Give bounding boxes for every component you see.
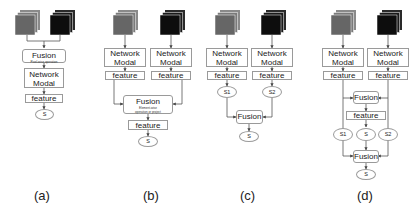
rgb-image-stack-icon (113, 10, 139, 35)
modal-label: Modal (105, 58, 145, 67)
modal-label: Modal (25, 79, 63, 88)
network-modal-box-a: Network Modal (24, 68, 64, 88)
depth-image-stack-icon (160, 10, 186, 35)
score-s2-c: S2 (262, 86, 282, 98)
output-s-a: S (35, 109, 54, 120)
fusion-title: Fusion (136, 97, 160, 106)
fusion-box-a: Fusion Pixel-wise operation (22, 49, 66, 63)
feature-box-b-right: feature (151, 71, 191, 80)
output-s-d: S (356, 169, 376, 180)
feature-box-d-right: feature (368, 71, 408, 80)
fusion-box-c: Fusion (236, 110, 263, 124)
caption-d: (d) (357, 188, 373, 203)
network-label: Network (25, 70, 63, 79)
caption-b: (b) (143, 188, 159, 203)
caption-c: (c) (240, 188, 255, 203)
depth-image-stack-icon (377, 10, 403, 35)
depth-image-stack-icon (261, 10, 287, 35)
network-label: Network (151, 49, 191, 58)
fusion-box-d-bottom: Fusion (353, 150, 379, 163)
feature-box-d-left: feature (323, 71, 363, 80)
fusion-title: Fusion (32, 51, 56, 60)
network-modal-box-d-right: Network Modal (367, 48, 409, 67)
fusion-subtitle: Pixel-wise operation (23, 60, 65, 64)
network-label: Network (252, 49, 292, 58)
feature-box-a: feature (25, 94, 63, 103)
modal-label: Modal (323, 58, 363, 67)
output-s-b: S (138, 136, 158, 147)
network-modal-box-b-right: Network Modal (150, 48, 192, 67)
rgb-image-stack-icon (215, 10, 241, 35)
score-s2-d: S2 (378, 128, 398, 141)
score-s1-d: S1 (333, 128, 353, 141)
modal-label: Modal (151, 58, 191, 67)
feature-box-c-right: feature (252, 71, 292, 80)
rgb-image-stack-icon (331, 10, 357, 35)
output-s-c: S (239, 131, 259, 142)
caption-a: (a) (34, 188, 50, 203)
fusion-box-b: Fusion Element-wise operation or project (123, 95, 173, 114)
modal-label: Modal (207, 58, 247, 67)
network-label: Network (323, 49, 363, 58)
score-s1-c: S1 (217, 86, 237, 98)
network-modal-box-d-left: Network Modal (322, 48, 364, 67)
network-label: Network (207, 49, 247, 58)
modal-label: Modal (368, 58, 408, 67)
feature-box-d-fused: feature (346, 111, 386, 120)
feature-box-b-left: feature (105, 71, 145, 80)
fusion-subtitle-2: operation or project (124, 110, 172, 114)
network-label: Network (105, 49, 145, 58)
modal-label: Modal (252, 58, 292, 67)
network-modal-box-b-left: Network Modal (104, 48, 146, 67)
feature-box-c-left: feature (207, 71, 247, 80)
network-modal-box-c-right: Network Modal (251, 48, 293, 67)
score-s-d: S (356, 128, 376, 141)
network-modal-box-c-left: Network Modal (206, 48, 248, 67)
network-label: Network (368, 49, 408, 58)
feature-box-b-fused: feature (128, 120, 168, 130)
depth-image-stack-icon (50, 10, 76, 35)
rgb-image-stack-icon (15, 10, 41, 35)
fusion-box-d-top: Fusion (353, 91, 379, 104)
